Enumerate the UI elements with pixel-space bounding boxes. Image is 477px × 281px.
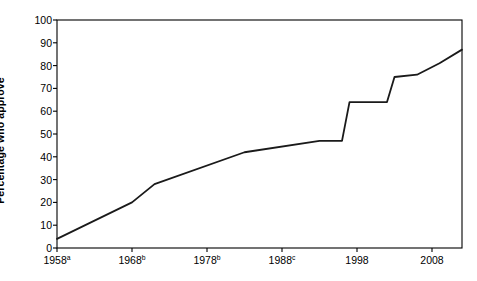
y-axis-ticks xyxy=(53,20,57,248)
chart-container: Percentage who approve 01020304050607080… xyxy=(0,0,477,281)
plot-area xyxy=(0,0,477,281)
plot-frame xyxy=(57,20,462,248)
x-axis-ticks xyxy=(57,248,432,252)
